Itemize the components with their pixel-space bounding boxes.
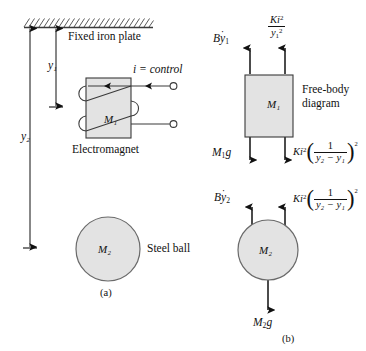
- Ki-term: Ki: [293, 193, 303, 204]
- force-label-weight-ball: M2g: [253, 317, 272, 329]
- terminal-top: [170, 83, 177, 90]
- outer-exponent-2: 2: [354, 140, 357, 147]
- current-control-label: i = control: [133, 64, 183, 76]
- subscript-1: 1: [225, 37, 229, 46]
- maglev-diagram-svg: [0, 0, 366, 351]
- Ki-term: Ki: [270, 14, 280, 25]
- y2-text: y₂: [21, 130, 30, 142]
- Ki-term: Ki: [293, 146, 303, 157]
- force-label-magnet-attraction-on-ball: Ki2( 1 y₂ − y₁ )2: [293, 188, 358, 211]
- steel-ball-label: Steel ball: [147, 243, 190, 255]
- velocity-y: y: [221, 191, 226, 203]
- y1-text: y₁: [48, 59, 57, 71]
- denominator-y2-minus-y1: y₂ − y₁: [314, 153, 347, 164]
- fbd-magnet-mass-label: M₁: [267, 99, 280, 110]
- mass-M: M: [253, 316, 263, 328]
- velocity-y: y: [220, 32, 225, 44]
- force-label-damping-ball: Ḃy2: [214, 192, 230, 204]
- free-body-diagram-label: Free-body diagram: [302, 82, 349, 111]
- mass-M: M: [212, 146, 222, 158]
- fbd-label-line1: Free-body: [302, 82, 349, 96]
- gravity-g: g: [266, 316, 272, 328]
- caption-b: (b): [282, 334, 294, 345]
- fbd-ball-mass-label: M₂: [259, 245, 272, 256]
- terminal-bottom: [170, 121, 177, 128]
- force-label-weight-magnet: M1g: [212, 147, 231, 159]
- dimension-label-y1: y₁: [48, 60, 57, 72]
- left-paren: (: [306, 144, 314, 160]
- electromagnet-mass-label: M₁: [104, 114, 117, 125]
- denominator-y2-minus-y1: y₂ − y₁: [314, 200, 347, 211]
- fixed-iron-plate-label: Fixed iron plate: [68, 31, 141, 43]
- damping-coefficient-B: B: [213, 32, 220, 44]
- exponent-2: 2: [279, 27, 282, 34]
- subscript-2: 2: [226, 196, 230, 205]
- force-label-damping-magnet: Ḃy1: [213, 33, 229, 45]
- fixed-iron-plate: [24, 19, 154, 28]
- fbd-label-line2: diagram: [302, 96, 349, 110]
- electromagnet-label: Electromagnet: [72, 144, 139, 156]
- outer-exponent-2: 2: [354, 187, 357, 194]
- caption-a: (a): [100, 288, 112, 299]
- gravity-g: g: [225, 146, 231, 158]
- dimension-label-y2: y₂: [21, 131, 30, 143]
- force-label-magnet-attraction: Ki2 y12: [268, 14, 285, 39]
- steel-ball-mass-label: M₂: [98, 244, 111, 255]
- damping-coefficient-B: B: [214, 191, 221, 203]
- left-paren: (: [306, 191, 314, 207]
- force-label-ball-attraction-on-magnet: Ki2( 1 y₂ − y₁ )2: [293, 141, 358, 164]
- exponent-2: 2: [280, 14, 283, 21]
